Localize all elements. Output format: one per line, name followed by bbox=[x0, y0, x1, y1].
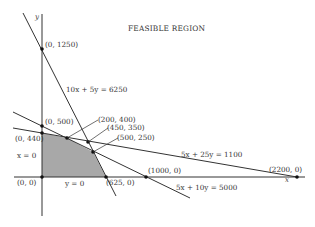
constraint-label-2: 5x + 25y = 1100 bbox=[181, 150, 243, 159]
point-label-0-0: (0, 0) bbox=[17, 178, 37, 187]
constraint-label-3: 5x + 10y = 5000 bbox=[176, 183, 238, 192]
point-label-0-500: (0, 500) bbox=[45, 117, 74, 126]
point-label-0-1250: (0, 1250) bbox=[45, 40, 78, 49]
leader-450-350 bbox=[88, 128, 108, 142]
constraint-line-3 bbox=[13, 112, 190, 198]
feasible-region bbox=[42, 133, 106, 177]
point-label-2200-0: (2200, 0) bbox=[269, 165, 302, 174]
point-label-1000-0: (1000, 0) bbox=[148, 166, 181, 175]
feasible-region-diagram: FEASIBLE REGION y x 10x + 5y = 6250 5x +… bbox=[0, 0, 315, 227]
point-label-625-0: (625, 0) bbox=[106, 178, 135, 187]
y-axis-label: y bbox=[34, 13, 40, 21]
point-label-0-440: (0, 440) bbox=[15, 134, 44, 143]
diagram-title: FEASIBLE REGION bbox=[128, 24, 206, 33]
constraint-label-y0: y = 0 bbox=[64, 179, 85, 188]
constraint-label-1: 10x + 5y = 6250 bbox=[66, 85, 128, 94]
point-label-450-350: (450, 350) bbox=[107, 123, 145, 132]
x-axis-label: x bbox=[285, 176, 289, 184]
constraint-label-x0: x = 0 bbox=[17, 151, 37, 160]
point-label-500-250: (500, 250) bbox=[117, 133, 155, 142]
